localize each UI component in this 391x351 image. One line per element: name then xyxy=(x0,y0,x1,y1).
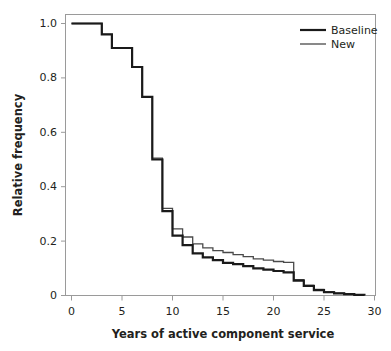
legend-label-baseline: Baseline xyxy=(331,24,378,37)
y-tick-label: 0.8 xyxy=(40,71,58,84)
x-tick-label: 5 xyxy=(119,305,126,318)
x-axis-tick-labels: 0 5 10 15 20 25 30 xyxy=(68,305,382,318)
x-axis-title: Years of active component service xyxy=(111,327,335,341)
plot-frame xyxy=(66,15,376,296)
x-axis-ticks xyxy=(72,296,375,301)
series-line-new xyxy=(72,24,365,296)
chart-plot-area: 1.0 0.8 0.6 0.4 0.2 0 0 5 10 15 20 25 30… xyxy=(0,0,391,351)
y-tick-label: 0.2 xyxy=(40,235,58,248)
y-axis-ticks xyxy=(61,24,66,296)
y-axis-title: Relative frequency xyxy=(11,93,25,216)
chart-figure: 1.0 0.8 0.6 0.4 0.2 0 0 5 10 15 20 25 30… xyxy=(0,0,391,351)
series-line-baseline xyxy=(72,24,365,296)
x-tick-label: 15 xyxy=(216,305,230,318)
y-tick-label: 0 xyxy=(50,289,57,302)
y-tick-label: 0.4 xyxy=(40,180,58,193)
y-tick-label: 1.0 xyxy=(40,17,58,30)
x-tick-label: 0 xyxy=(68,305,75,318)
x-tick-label: 20 xyxy=(267,305,281,318)
x-tick-label: 25 xyxy=(317,305,331,318)
y-axis-tick-labels: 1.0 0.8 0.6 0.4 0.2 0 xyxy=(40,17,58,302)
legend: Baseline New xyxy=(300,24,378,51)
legend-label-new: New xyxy=(331,38,355,51)
x-tick-label: 30 xyxy=(368,305,382,318)
y-tick-label: 0.6 xyxy=(40,126,58,139)
x-tick-label: 10 xyxy=(166,305,180,318)
